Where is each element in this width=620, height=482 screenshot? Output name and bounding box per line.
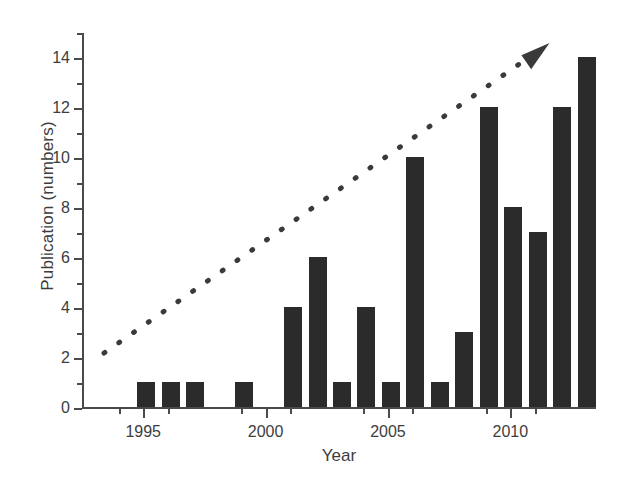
- y-tick-major: [74, 408, 82, 410]
- y-tick-major: [74, 258, 82, 260]
- x-tick-minor: [363, 409, 365, 414]
- y-tick-label: 12: [52, 99, 70, 117]
- y-tick-major: [74, 308, 82, 310]
- y-axis-line: [82, 33, 84, 408]
- y-tick-major: [74, 208, 82, 210]
- x-tick-minor: [486, 409, 488, 414]
- bar: [406, 157, 424, 407]
- bar: [455, 332, 473, 407]
- x-tick-minor: [290, 409, 292, 414]
- trend-arrowhead: [521, 43, 549, 69]
- bar: [578, 57, 596, 407]
- y-tick-label: 14: [52, 49, 70, 67]
- y-tick-label: 8: [61, 199, 70, 217]
- x-tick-major: [143, 409, 145, 418]
- y-tick-minor: [77, 33, 82, 35]
- x-tick-major: [510, 409, 512, 418]
- bar: [186, 382, 204, 407]
- bar: [357, 307, 375, 407]
- x-tick-minor: [168, 409, 170, 414]
- publication-trend-chart: Publication (numbers) Year 02468101214 1…: [0, 0, 620, 482]
- x-tick-major: [388, 409, 390, 418]
- y-tick-label: 6: [61, 249, 70, 267]
- bar: [480, 107, 498, 407]
- y-tick-minor: [77, 133, 82, 135]
- y-tick-major: [74, 358, 82, 360]
- y-tick-major: [74, 158, 82, 160]
- x-tick-minor: [412, 409, 414, 414]
- bar: [333, 382, 351, 407]
- y-tick-minor: [77, 333, 82, 335]
- bar: [382, 382, 400, 407]
- bar: [235, 382, 253, 407]
- x-tick-major: [266, 409, 268, 418]
- plot-area: 02468101214 1995200020052010: [82, 33, 596, 408]
- x-tick-label: 1995: [125, 423, 161, 441]
- y-tick-label: 4: [61, 299, 70, 317]
- y-tick-label: 10: [52, 149, 70, 167]
- x-tick-minor: [241, 409, 243, 414]
- bar: [431, 382, 449, 407]
- y-tick-label: 2: [61, 349, 70, 367]
- bar: [284, 307, 302, 407]
- x-tick-minor: [119, 409, 121, 414]
- y-tick-major: [74, 108, 82, 110]
- y-tick-minor: [77, 283, 82, 285]
- y-tick-label: 0: [61, 399, 70, 417]
- x-tick-minor: [535, 409, 537, 414]
- x-tick-label: 2010: [493, 423, 529, 441]
- bar: [529, 232, 547, 407]
- bar: [309, 257, 327, 407]
- y-tick-minor: [77, 233, 82, 235]
- y-tick-minor: [77, 183, 82, 185]
- y-tick-major: [74, 58, 82, 60]
- bar: [162, 382, 180, 407]
- bar: [504, 207, 522, 407]
- x-axis-title: Year: [82, 446, 596, 466]
- y-tick-minor: [77, 383, 82, 385]
- y-tick-minor: [77, 83, 82, 85]
- bar: [137, 382, 155, 407]
- x-tick-label: 2000: [248, 423, 284, 441]
- bar: [553, 107, 571, 407]
- x-axis-line: [82, 407, 596, 409]
- x-tick-label: 2005: [370, 423, 406, 441]
